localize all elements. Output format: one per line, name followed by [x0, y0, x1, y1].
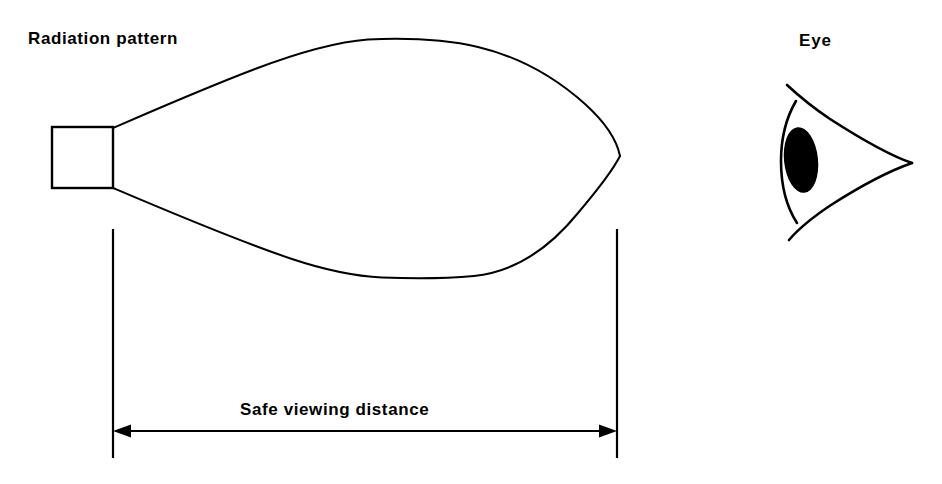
dimension-arrowhead-right	[599, 425, 617, 438]
diagram-canvas: Radiation pattern Eye Safe viewing dista…	[0, 0, 942, 484]
radiation-safety-diagram: Radiation pattern Eye Safe viewing dista…	[0, 0, 942, 484]
emitter-source-box	[52, 127, 113, 188]
dimension-arrowhead-left	[113, 425, 131, 438]
beam-upper-edge	[113, 39, 620, 156]
safe-viewing-distance-label: Safe viewing distance	[240, 400, 429, 419]
eye-pupil	[781, 125, 822, 194]
eye-label: Eye	[799, 31, 832, 50]
radiation-pattern-label: Radiation pattern	[28, 29, 178, 48]
beam-lower-edge	[113, 156, 620, 278]
